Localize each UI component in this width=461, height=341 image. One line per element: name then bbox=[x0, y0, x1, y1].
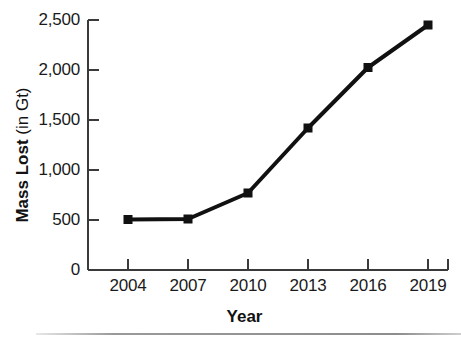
data-point-marker bbox=[424, 21, 433, 30]
series-markers bbox=[124, 21, 433, 225]
data-point-marker bbox=[304, 124, 313, 133]
data-point-marker bbox=[364, 63, 373, 72]
x-axis-ticks bbox=[128, 259, 428, 270]
y-axis-title: Mass Lost (in Gt) bbox=[13, 55, 33, 255]
x-axis-title-text: Year bbox=[227, 307, 263, 327]
y-axis-title-unit: (in Gt) bbox=[13, 87, 32, 134]
data-point-marker bbox=[124, 215, 133, 224]
y-axis-ticks bbox=[88, 70, 99, 220]
chart-axes bbox=[88, 20, 448, 270]
page-divider-rule bbox=[36, 333, 461, 335]
data-series-mass-lost bbox=[124, 21, 433, 225]
y-axis-title-bold: Mass Lost bbox=[13, 139, 32, 222]
x-axis-title: Year bbox=[0, 307, 461, 327]
chart-figure: 2,500 2,000 1,500 1,000 500 0 2004 2007 … bbox=[0, 0, 461, 341]
series-line bbox=[128, 25, 428, 220]
chart-canvas bbox=[0, 0, 461, 341]
data-point-marker bbox=[184, 215, 193, 224]
data-point-marker bbox=[244, 189, 253, 198]
